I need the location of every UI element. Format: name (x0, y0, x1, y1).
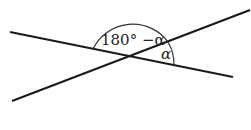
supplementary-angle-label: 180° −α (101, 31, 165, 49)
intersecting-lines-diagram: 180° −α α (0, 0, 251, 130)
alpha-angle-label: α (161, 45, 171, 63)
